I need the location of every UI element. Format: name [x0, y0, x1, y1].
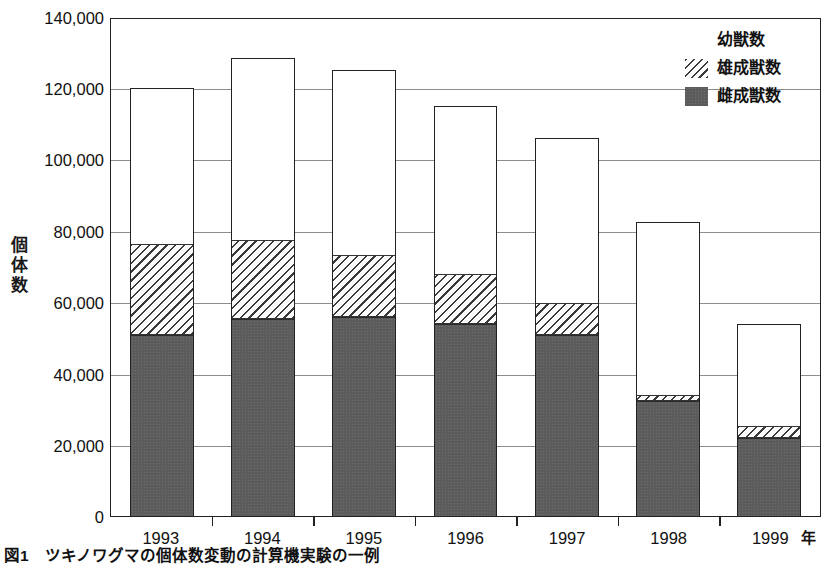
- bar-segment-male-1995: [333, 255, 395, 317]
- stacked-bar-1999[interactable]: [737, 324, 801, 516]
- legend-swatch-young-icon: [685, 31, 708, 50]
- stacked-bar-1997[interactable]: [535, 138, 599, 516]
- legend-label-male-adult: 雄成獣数: [717, 59, 781, 77]
- x-axis-tick: [516, 517, 517, 526]
- bar-slot-1994: [212, 19, 313, 516]
- legend-label-young: 幼獣数: [717, 31, 765, 49]
- bar-segment-young-1994: [232, 59, 294, 240]
- bar-segment-male-1993: [131, 244, 193, 335]
- bar-slot-1996: [415, 19, 516, 516]
- x-tick-label-1996: 1996: [415, 526, 517, 552]
- legend-swatch-female-adult-icon: [685, 87, 708, 106]
- x-tick-label-1997: 1997: [516, 526, 618, 552]
- bar-segment-young-1995: [333, 71, 395, 254]
- bar-segment-female-1996: [435, 324, 497, 516]
- bar-segment-young-1999: [738, 325, 800, 426]
- legend-item-female-adult: 雌成獣数: [685, 82, 821, 110]
- stacked-bar-1995[interactable]: [332, 70, 396, 516]
- y-tick-label: 40,000: [14, 367, 104, 383]
- y-axis-tick-labels: 140,000 120,000 100,000 80,000 60,000 40…: [0, 0, 104, 561]
- x-axis-tick: [212, 517, 213, 526]
- bar-segment-male-1997: [536, 303, 598, 335]
- legend-swatch-male-adult-icon: [685, 59, 708, 78]
- bar-segment-female-1998: [637, 401, 699, 516]
- stacked-bar-1998[interactable]: [636, 222, 700, 516]
- bar-segment-young-1996: [435, 107, 497, 274]
- legend-item-young: 幼獣数: [685, 26, 821, 54]
- bar-slot-1993: [111, 19, 212, 516]
- y-tick-label: 80,000: [14, 224, 104, 240]
- bar-slot-1995: [314, 19, 415, 516]
- stacked-bar-1993[interactable]: [130, 88, 194, 516]
- y-tick-label: 60,000: [14, 295, 104, 311]
- figure-caption: 図1 ツキノワグマの個体数変動の計算機実験の一例: [4, 547, 380, 565]
- x-axis-tick: [313, 517, 314, 526]
- bar-segment-young-1998: [637, 223, 699, 395]
- y-tick-label: 140,000: [14, 10, 104, 26]
- bar-segment-male-1996: [435, 274, 497, 324]
- y-tick-label: 0: [14, 509, 104, 525]
- x-tick-label-1998: 1998: [618, 526, 720, 552]
- bar-segment-male-1999: [738, 426, 800, 438]
- bar-segment-young-1997: [536, 139, 598, 303]
- bar-segment-female-1994: [232, 319, 294, 516]
- bar-slot-1997: [516, 19, 617, 516]
- bar-segment-female-1995: [333, 317, 395, 516]
- y-tick-label: 20,000: [14, 438, 104, 454]
- x-axis-tick: [415, 517, 416, 526]
- x-axis-ticks: [110, 517, 821, 526]
- y-tick-label: 100,000: [14, 152, 104, 168]
- stacked-bar-1994[interactable]: [231, 58, 295, 516]
- x-axis-tick: [719, 517, 720, 526]
- bar-segment-female-1999: [738, 438, 800, 516]
- x-axis-tick: [618, 517, 619, 526]
- bar-segment-female-1997: [536, 335, 598, 516]
- x-axis-unit-label: 年: [801, 526, 816, 550]
- legend: 幼獣数 雄成獣数 雌成獣数: [683, 22, 823, 116]
- bar-segment-male-1994: [232, 240, 294, 318]
- bar-segment-young-1993: [131, 89, 193, 244]
- legend-item-male-adult: 雄成獣数: [685, 54, 821, 82]
- bar-segment-female-1993: [131, 335, 193, 516]
- y-tick-label: 120,000: [14, 81, 104, 97]
- stacked-bar-1996[interactable]: [434, 106, 498, 516]
- legend-label-female-adult: 雌成獣数: [717, 87, 781, 105]
